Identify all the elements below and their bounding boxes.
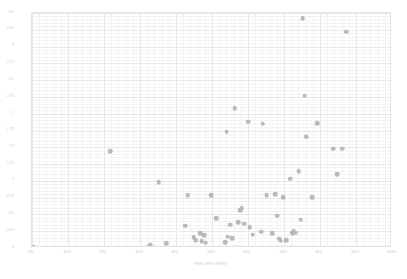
data-point: [209, 193, 214, 198]
data-point: [248, 225, 253, 230]
data-point: [294, 230, 299, 235]
data-point: [278, 238, 283, 243]
data-point: [315, 121, 320, 126]
data-point: [240, 206, 245, 211]
x-axis-tick-label: 10%: [63, 250, 70, 254]
data-point: [300, 16, 305, 21]
data-point: [230, 236, 235, 241]
data-point: [298, 218, 303, 223]
data-point: [250, 232, 255, 237]
data-point: [32, 244, 36, 246]
data-point: [202, 233, 207, 238]
data-point: [228, 222, 233, 227]
data-point: [203, 240, 208, 245]
data-point: [194, 238, 199, 243]
data-point: [108, 149, 113, 154]
data-point: [164, 241, 169, 246]
data-point: [273, 192, 278, 197]
data-point: [236, 220, 241, 225]
data-point: [284, 238, 289, 243]
data-point: [304, 134, 309, 139]
x-axis-tick-label: 70%: [279, 250, 286, 254]
data-point: [310, 195, 315, 200]
x-axis-tick-label: 100%: [386, 250, 395, 254]
data-point: [156, 180, 161, 185]
data-point: [340, 146, 345, 151]
scatter-chart: CEMETERIES PER MILLION RESIDENTS PERCENT…: [0, 0, 407, 279]
plot-area: [31, 12, 391, 247]
data-point: [223, 240, 228, 245]
data-point: [288, 177, 293, 182]
data-point: [331, 146, 336, 151]
x-axis-tick-label: 90%: [351, 250, 358, 254]
x-axis-tick-label: 40%: [171, 250, 178, 254]
data-point: [281, 195, 286, 200]
data-point: [335, 172, 340, 177]
data-point: [224, 130, 229, 135]
data-point: [183, 224, 188, 229]
data-point: [296, 169, 301, 174]
x-axis-title: PERCENT WHITE: [195, 262, 228, 266]
data-point: [260, 121, 265, 126]
data-point: [185, 193, 190, 198]
x-axis-tick-label: 80%: [315, 250, 322, 254]
data-point: [302, 93, 307, 98]
data-point: [246, 119, 251, 124]
data-point: [270, 231, 275, 236]
data-point: [148, 242, 153, 246]
x-axis-tick-label: 50%: [207, 250, 214, 254]
data-point: [232, 106, 237, 111]
data-point: [344, 30, 349, 35]
x-axis-tick-label: 20%: [99, 250, 106, 254]
data-point: [264, 193, 269, 198]
data-point: [242, 222, 247, 227]
data-points-layer: [32, 13, 390, 246]
x-axis-tick-label: 0%: [28, 250, 33, 254]
x-axis-tick-label: 30%: [135, 250, 142, 254]
x-axis-tick-label: 60%: [243, 250, 250, 254]
data-point: [259, 230, 264, 235]
data-point: [214, 216, 219, 221]
data-point: [275, 213, 280, 218]
